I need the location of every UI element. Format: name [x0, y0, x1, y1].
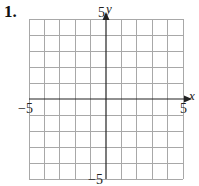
y-axis-label: y	[106, 2, 112, 15]
y-max-label: 5	[98, 6, 105, 20]
x-min-label: −5	[18, 102, 33, 116]
y-min-label: −5	[88, 173, 103, 186]
x-max-label: 5	[180, 102, 187, 116]
x-axis-label: x	[189, 89, 195, 102]
coordinate-grid	[0, 0, 199, 186]
axes	[29, 16, 186, 179]
